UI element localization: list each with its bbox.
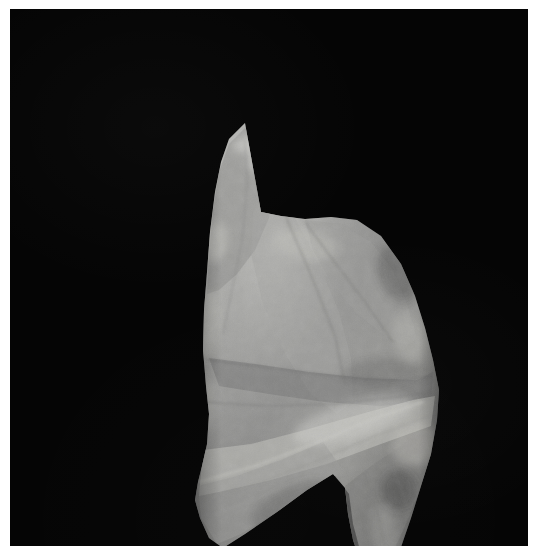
photo-page bbox=[0, 0, 540, 560]
artifact-image bbox=[10, 9, 528, 546]
right-notch-shadow bbox=[385, 200, 405, 228]
photo-black-field bbox=[10, 9, 528, 546]
artifact-body bbox=[175, 104, 465, 546]
artifact-edge-fade bbox=[175, 104, 465, 546]
